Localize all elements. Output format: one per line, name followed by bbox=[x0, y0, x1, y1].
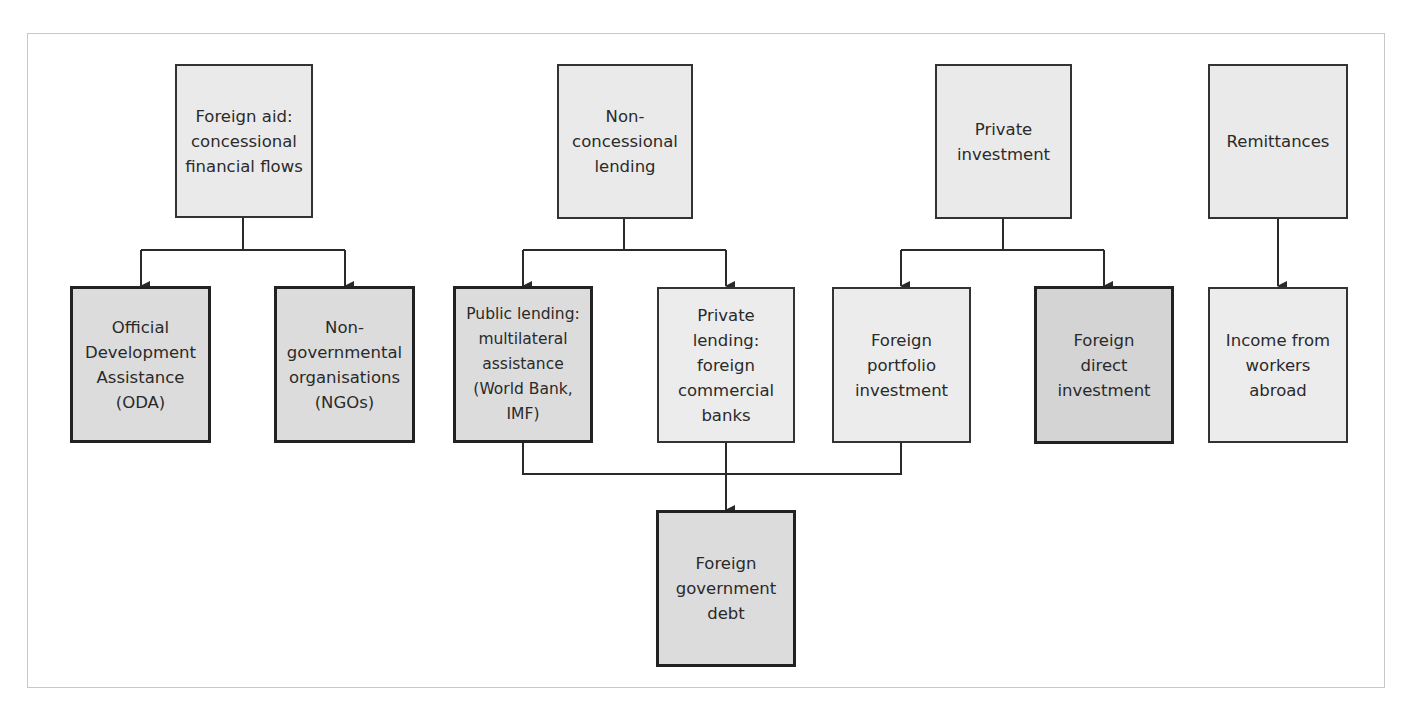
node-private-investment: Private investment bbox=[935, 64, 1072, 219]
node-text: Public lending: bbox=[466, 302, 580, 327]
node-text: debt bbox=[676, 601, 777, 626]
node-text: Private bbox=[957, 117, 1050, 142]
node-private-lending: Private lending: foreign commercial bank… bbox=[657, 287, 795, 443]
node-gov-debt: Foreign government debt bbox=[656, 510, 796, 667]
node-text: investment bbox=[1057, 378, 1150, 403]
node-text: portfolio bbox=[855, 353, 948, 378]
node-public-lending: Public lending: multilateral assistance … bbox=[453, 286, 593, 443]
node-text: assistance bbox=[466, 352, 580, 377]
node-text: commercial bbox=[678, 378, 774, 403]
node-text: Development bbox=[85, 340, 196, 365]
node-non-concessional: Non- concessional lending bbox=[557, 64, 693, 219]
node-text: direct bbox=[1057, 353, 1150, 378]
node-text: investment bbox=[957, 142, 1050, 167]
node-text: investment bbox=[855, 378, 948, 403]
node-text: concessional bbox=[185, 129, 303, 154]
node-text: lending bbox=[572, 154, 678, 179]
node-text: lending: bbox=[678, 328, 774, 353]
node-text: Foreign bbox=[676, 551, 777, 576]
node-text: (ODA) bbox=[85, 390, 196, 415]
node-fdi: Foreign direct investment bbox=[1034, 286, 1174, 444]
node-text: Private bbox=[678, 303, 774, 328]
node-income-workers: Income from workers abroad bbox=[1208, 287, 1348, 443]
node-oda: Official Development Assistance (ODA) bbox=[70, 286, 211, 443]
node-text: Official bbox=[85, 315, 196, 340]
node-text: Assistance bbox=[85, 365, 196, 390]
node-text: Non- bbox=[287, 315, 402, 340]
node-text: government bbox=[676, 576, 777, 601]
node-text: (NGOs) bbox=[287, 390, 402, 415]
node-text: multilateral bbox=[466, 327, 580, 352]
node-foreign-aid: Foreign aid: concessional financial flow… bbox=[175, 64, 313, 218]
node-text: Foreign bbox=[855, 328, 948, 353]
node-text: Foreign aid: bbox=[185, 104, 303, 129]
node-text: (World Bank, bbox=[466, 377, 580, 402]
node-text: Non- bbox=[572, 104, 678, 129]
node-text: abroad bbox=[1226, 378, 1330, 403]
node-ngos: Non- governmental organisations (NGOs) bbox=[274, 286, 415, 443]
node-remittances: Remittances bbox=[1208, 64, 1348, 219]
node-text: financial flows bbox=[185, 154, 303, 179]
node-text: concessional bbox=[572, 129, 678, 154]
node-text: banks bbox=[678, 403, 774, 428]
node-text: governmental bbox=[287, 340, 402, 365]
node-text: Foreign bbox=[1057, 328, 1150, 353]
node-text: Remittances bbox=[1227, 129, 1330, 154]
node-text: Income from bbox=[1226, 328, 1330, 353]
node-text: organisations bbox=[287, 365, 402, 390]
node-text: workers bbox=[1226, 353, 1330, 378]
node-portfolio: Foreign portfolio investment bbox=[832, 287, 971, 443]
node-text: foreign bbox=[678, 353, 774, 378]
node-text: IMF) bbox=[466, 402, 580, 427]
